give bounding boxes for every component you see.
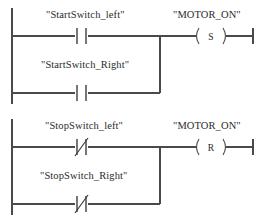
rung-1-set-coil[interactable]: S <box>197 28 226 44</box>
rung-2-operand-label-1: "StopSwitch_left" <box>45 121 123 132</box>
rung-2-contact-nc-2[interactable] <box>75 195 88 213</box>
rung-2-operand-label-2: "StopSwitch_Right" <box>40 171 127 182</box>
rung-2-output-operand-label: "MOTOR_ON" <box>173 121 241 132</box>
rung-1-contact-no-2[interactable] <box>77 85 86 101</box>
rung-1-contact-no-1[interactable] <box>77 28 86 44</box>
ladder-logic-diagram: S "StartSwitch_left" "StartSwitch_Right"… <box>0 0 265 223</box>
rung-2-contact-nc-1[interactable] <box>75 138 88 156</box>
rung-1-output-operand-label: "MOTOR_ON" <box>173 10 241 21</box>
rung-1-coil-letter: S <box>208 32 213 42</box>
rung-2-coil-letter: R <box>208 143 215 153</box>
rung-1-operand-label-2: "StartSwitch_Right" <box>41 60 129 71</box>
rung-1-operand-label-1: "StartSwitch_left" <box>46 10 125 21</box>
rung-2-reset-coil[interactable]: R <box>197 139 226 155</box>
